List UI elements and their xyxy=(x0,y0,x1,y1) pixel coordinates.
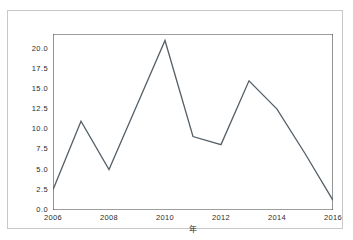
x-tick-label: 2012 xyxy=(212,214,230,222)
y-tick-label: 10.0 xyxy=(32,126,48,134)
x-tick-label: 2014 xyxy=(268,214,286,222)
axis-frame xyxy=(53,34,333,210)
y-tick-label: 12.5 xyxy=(32,105,48,113)
x-tick-label: 2016 xyxy=(324,214,342,222)
x-axis-title: 年 xyxy=(53,226,333,234)
y-tick-label: 20.0 xyxy=(32,45,48,53)
plot-area xyxy=(53,34,333,210)
data-series-line xyxy=(53,40,333,200)
y-tick-label: 17.5 xyxy=(32,65,48,73)
y-tick-label: 7.5 xyxy=(36,146,48,154)
x-tick-label: 2008 xyxy=(100,214,118,222)
y-tick-label: 2.5 xyxy=(36,186,48,194)
y-tick-label: 5.0 xyxy=(36,166,48,174)
y-axis-tick-labels: 0.02.55.07.510.012.515.017.520.0 xyxy=(16,34,48,210)
y-tick-label: 15.0 xyxy=(32,85,48,93)
x-tick-label: 2010 xyxy=(156,214,174,222)
x-tick-label: 2006 xyxy=(44,214,62,222)
line-chart-svg xyxy=(53,34,333,210)
figure-frame: 0.02.55.07.510.012.515.017.520.0 2006200… xyxy=(7,10,343,229)
